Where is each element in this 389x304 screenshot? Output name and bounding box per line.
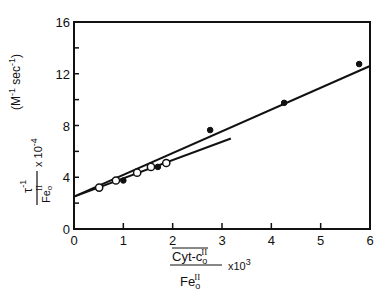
x-axis-ticks: 0123456 (70, 223, 373, 248)
x-axis-denominator: Fe (180, 274, 195, 289)
data-points (96, 61, 362, 191)
y-axis-ticks: 0481216 (56, 15, 79, 237)
chart: 0123456 0481216 Cyt-coII FeoII x103 τ-1 … (0, 0, 389, 304)
svg-text:FeoII: FeoII (35, 185, 54, 203)
open-circle-point (96, 184, 103, 191)
filled-circle-point (155, 164, 161, 170)
x-tick-label: 1 (120, 233, 127, 248)
open-circle-point (112, 177, 119, 184)
x-axis-label: Cyt-coII FeoII x103 (170, 247, 251, 291)
x-tick-label: 6 (366, 233, 373, 248)
y-tick-label: 16 (56, 15, 70, 30)
open-circle-point (163, 159, 170, 166)
x-axis-numerator: Cyt-c (172, 249, 203, 264)
y-axis-denominator: Fe (40, 190, 52, 203)
filled-circle-point (207, 127, 213, 133)
y-tick-label: 12 (56, 67, 70, 82)
filled-circle-point (356, 61, 362, 67)
x-tick-label: 3 (218, 233, 225, 248)
svg-text:Cyt-coII: Cyt-coII (172, 247, 207, 266)
filled-circle-point (281, 100, 287, 106)
svg-text:τ-1: τ-1 (18, 180, 35, 193)
y-tick-label: 0 (63, 222, 70, 237)
y-axis-units: (M-1 sec-1) (7, 54, 23, 110)
y-tick-label: 8 (63, 119, 70, 134)
y-axis-label: τ-1 FeoII x 10-4 (18, 138, 54, 205)
y-axis-multiplier: x 10 (32, 146, 44, 167)
x-tick-label: 2 (169, 233, 176, 248)
svg-text:x103: x103 (228, 257, 251, 272)
y-tick-label: 4 (63, 170, 70, 185)
plot-frame (74, 22, 370, 229)
open-circle-point (147, 163, 154, 170)
x-tick-label: 5 (317, 233, 324, 248)
x-tick-label: 0 (70, 233, 77, 248)
svg-text:FeoII: FeoII (180, 272, 200, 291)
x-axis-multiplier: x10 (228, 260, 246, 272)
open-circle-point (134, 169, 141, 176)
filled-circle-point (121, 178, 127, 184)
svg-text:(M-1 sec-1): (M-1 sec-1) (7, 54, 23, 110)
svg-text:x 10-4: x 10-4 (29, 138, 44, 167)
x-tick-label: 4 (268, 233, 275, 248)
